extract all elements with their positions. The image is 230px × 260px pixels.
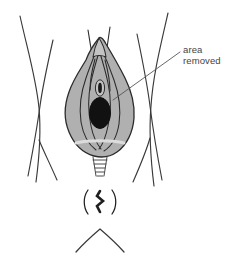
anatomical-figure: area removed xyxy=(0,0,230,260)
perineal-fringe xyxy=(93,157,107,176)
urethral-inner-slit xyxy=(98,83,102,93)
annotation-label-line-2: removed xyxy=(183,55,221,66)
left-thigh-crease xyxy=(20,16,57,182)
anus-right-arc xyxy=(112,190,116,214)
anatomy-illustration xyxy=(0,0,230,260)
left-crease-branch-line xyxy=(39,140,57,180)
right-crease-branch-line xyxy=(133,138,150,182)
left-crease-outer-line xyxy=(20,16,40,182)
urethral-opening xyxy=(95,80,104,96)
right-crease-outer-line xyxy=(150,13,168,186)
anus-marking xyxy=(84,190,116,214)
anus-left-arc xyxy=(84,190,88,214)
right-thigh-crease xyxy=(133,13,168,186)
annotation-label: area removed xyxy=(183,44,221,66)
coccyx-chevron xyxy=(76,229,124,252)
left-crease-inner-line xyxy=(28,40,53,176)
annotation-label-line-1: area xyxy=(183,44,221,55)
vaginal-opening xyxy=(90,98,111,129)
anus-center-zigzag xyxy=(97,191,103,212)
